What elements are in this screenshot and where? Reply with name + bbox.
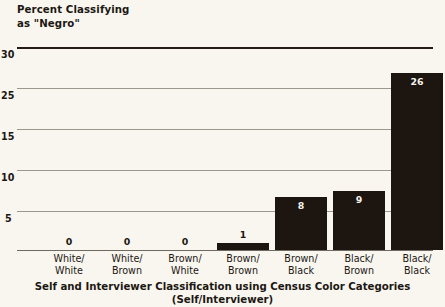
chart-figure: Percent Classifying as "Negro" 0 0 0 1 8… bbox=[0, 0, 445, 307]
y-axis-label: Percent Classifying as "Negro" bbox=[17, 3, 217, 30]
y-tick-20: 15 bbox=[1, 132, 14, 142]
bar-value-white-brown: 0 bbox=[101, 237, 153, 247]
top-axis-rule bbox=[17, 47, 433, 49]
x-tick-label-white-brown: White/ Brown bbox=[101, 253, 153, 277]
gridline-10 bbox=[17, 170, 433, 171]
y-tick-5: 5 bbox=[5, 214, 12, 224]
plot-area: 0 0 0 1 8 9 26 bbox=[17, 47, 433, 251]
x-tick-label-black-black: Black/ Black bbox=[391, 253, 443, 277]
x-axis-title-line-1: Self and Interviewer Classification usin… bbox=[0, 281, 445, 294]
x-tick-label-brown-brown: Brown/ Brown bbox=[217, 253, 269, 277]
x-axis-title-line-2: (Self/Interviewer) bbox=[0, 294, 445, 307]
x-tick-label-white-white: White/ White bbox=[43, 253, 95, 277]
x-tick-label-black-brown: Black/ Brown bbox=[333, 253, 385, 277]
y-axis-label-line-2: as "Negro" bbox=[17, 17, 217, 31]
gridline-25 bbox=[17, 88, 433, 89]
y-tick-10: 10 bbox=[1, 173, 14, 183]
bar-value-brown-white: 0 bbox=[159, 237, 211, 247]
x-axis-baseline bbox=[17, 250, 433, 251]
bar-black-black bbox=[391, 73, 443, 250]
x-tick-label-brown-black: Brown/ Black bbox=[275, 253, 327, 277]
y-tick-25: 25 bbox=[1, 91, 14, 101]
x-axis-title: Self and Interviewer Classification usin… bbox=[0, 281, 445, 306]
y-tick-30: 30 bbox=[1, 50, 14, 60]
x-tick-label-brown-white: Brown/ White bbox=[159, 253, 211, 277]
bar-value-black-brown: 9 bbox=[333, 195, 385, 205]
bar-value-black-black: 26 bbox=[391, 77, 443, 87]
y-axis-label-line-1: Percent Classifying bbox=[17, 3, 217, 17]
bar-value-brown-brown: 1 bbox=[217, 230, 269, 240]
gridline-20 bbox=[17, 129, 433, 130]
bar-value-brown-black: 8 bbox=[275, 201, 327, 211]
bar-brown-brown bbox=[217, 243, 269, 250]
bar-value-white-white: 0 bbox=[43, 237, 95, 247]
